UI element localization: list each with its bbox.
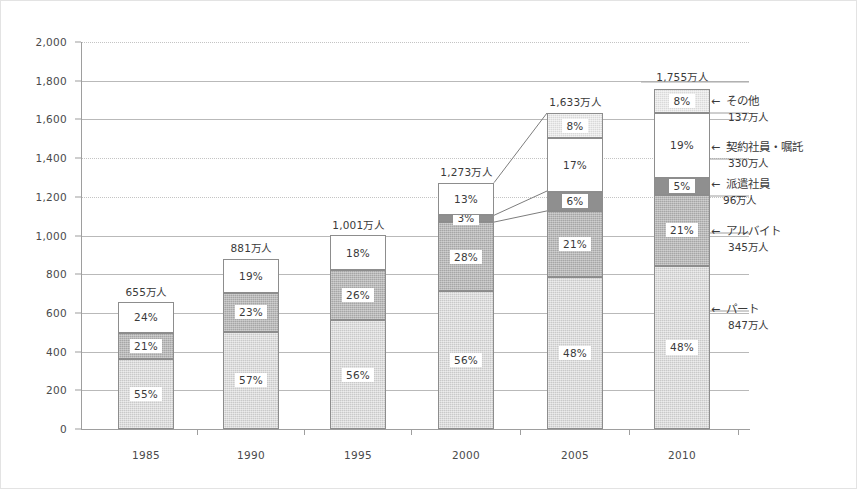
y-tick-mark-400: [75, 351, 81, 352]
x-tick-label-2000: 2000: [452, 449, 480, 461]
x-tick-mark-4: [520, 429, 521, 435]
y-tick-mark-2000: [75, 42, 81, 43]
segment-label: 28%: [450, 250, 482, 264]
y-tick-mark-200: [75, 390, 81, 391]
bar-1995[interactable]: 56% 26% 18%: [330, 235, 386, 429]
callout-name: パート: [726, 302, 759, 316]
segment-part-1995[interactable]: 56%: [330, 320, 386, 429]
segment-label: 6%: [562, 194, 587, 208]
gridline-200: [81, 390, 749, 391]
segment-other-2010[interactable]: 8%: [654, 89, 710, 113]
callout-value: 330万人: [728, 156, 803, 171]
segment-keiyaku-1995[interactable]: 18%: [330, 235, 386, 270]
segment-part-1990[interactable]: 57%: [223, 332, 279, 429]
segment-haken-2010[interactable]: 5%: [654, 178, 710, 195]
arrow-icon: ←: [711, 177, 726, 193]
segment-haken-2000[interactable]: 3%: [438, 215, 494, 222]
segment-keiyaku-1990[interactable]: 19%: [223, 259, 279, 293]
callout-arbeit: ←アルバイト 345万人: [711, 223, 781, 255]
segment-keiyaku-2000[interactable]: 13%: [438, 183, 494, 215]
bar-2000[interactable]: 56% 28% 3% 13%: [438, 183, 494, 429]
segment-keiyaku-1985[interactable]: 24%: [118, 302, 174, 332]
gridline-1200: [81, 197, 749, 198]
y-tick-label-800: 800: [21, 268, 67, 280]
segment-label: 23%: [235, 305, 267, 319]
callout-name: 派遣社員: [726, 177, 770, 191]
bar-total-1990: 881万人: [230, 240, 271, 255]
y-tick-mark-0: [75, 429, 81, 430]
y-tick-mark-1400: [75, 158, 81, 159]
y-tick-label-0: 0: [21, 423, 67, 435]
segment-haken-2005[interactable]: 6%: [547, 192, 603, 211]
callout-name: その他: [726, 94, 759, 108]
segment-part-2000[interactable]: 56%: [438, 291, 494, 429]
segment-label: 21%: [130, 339, 162, 353]
y-tick-label-600: 600: [21, 307, 67, 319]
callout-name: アルバイト: [726, 224, 781, 238]
callout-part: ←パート 847万人: [711, 301, 768, 333]
segment-label: 56%: [450, 353, 482, 367]
arrow-icon: ←: [711, 302, 726, 318]
gridline-2000: [81, 42, 749, 43]
y-tick-label-1400: 1,400: [21, 152, 67, 164]
segment-label: 21%: [559, 237, 591, 251]
segment-part-2010[interactable]: 48%: [654, 266, 710, 429]
segment-keiyaku-2010[interactable]: 19%: [654, 113, 710, 178]
arrow-icon: ←: [711, 94, 726, 110]
segment-keiyaku-2005[interactable]: 17%: [547, 138, 603, 192]
bar-1990[interactable]: 57% 23% 19%: [223, 259, 279, 430]
bar-total-1985: 655万人: [125, 284, 166, 299]
segment-arbeit-1990[interactable]: 23%: [223, 293, 279, 332]
callout-value: 137万人: [728, 110, 768, 125]
segment-label: 18%: [342, 246, 374, 260]
chart-frame: 0 200 400 600 800 1,000 1,200 1,400 1,60…: [0, 0, 857, 489]
x-tick-mark-2: [304, 429, 305, 435]
callout-haken: ←派遣社員 96万人: [711, 176, 770, 208]
y-tick-label-400: 400: [21, 346, 67, 358]
y-tick-mark-1200: [75, 196, 81, 197]
gridline-600: [81, 313, 749, 314]
x-tick-label-1990: 1990: [237, 449, 265, 461]
segment-other-2005[interactable]: 8%: [547, 113, 603, 138]
segment-part-2005[interactable]: 48%: [547, 277, 603, 429]
segment-arbeit-2010[interactable]: 21%: [654, 195, 710, 266]
x-tick-label-1985: 1985: [132, 449, 160, 461]
y-tick-mark-1600: [75, 119, 81, 120]
segment-arbeit-1995[interactable]: 26%: [330, 270, 386, 320]
x-tick-mark-6: [738, 429, 739, 435]
gridline-1000: [81, 236, 749, 237]
segment-label: 57%: [235, 373, 267, 387]
x-tick-mark-5: [629, 429, 630, 435]
segment-part-1985[interactable]: 55%: [118, 359, 174, 429]
segment-label: 19%: [666, 138, 698, 152]
y-tick-label-1800: 1,800: [21, 75, 67, 87]
y-tick-label-1000: 1,000: [21, 230, 67, 242]
segment-label: 17%: [559, 158, 591, 172]
callout-value: 847万人: [728, 318, 768, 333]
bar-1985[interactable]: 55% 21% 24%: [118, 302, 174, 429]
y-tick-label-1600: 1,600: [21, 113, 67, 125]
plot-area: [81, 42, 749, 429]
segment-label: 13%: [450, 192, 482, 206]
x-tick-label-2005: 2005: [561, 449, 589, 461]
bar-2005[interactable]: 48% 21% 6% 17% 8%: [547, 113, 603, 429]
gridline-800: [81, 274, 749, 275]
bar-total-1995: 1,001万人: [332, 217, 383, 232]
segment-label: 55%: [130, 387, 162, 401]
arrow-icon: ←: [711, 224, 726, 240]
callout-value: 96万人: [723, 193, 770, 208]
segment-arbeit-2005[interactable]: 21%: [547, 211, 603, 277]
segment-label: 56%: [342, 368, 374, 382]
y-tick-mark-1000: [75, 235, 81, 236]
segment-label: 5%: [669, 179, 694, 193]
segment-arbeit-2000[interactable]: 28%: [438, 222, 494, 291]
callout-sonota: ←その他 137万人: [711, 93, 768, 125]
gridline-1600: [81, 119, 749, 120]
y-tick-mark-1800: [75, 80, 81, 81]
bar-2010[interactable]: 48% 21% 5% 19% 8%: [654, 89, 710, 429]
y-tick-label-2000: 2,000: [21, 36, 67, 48]
y-axis-line: [81, 42, 82, 429]
segment-label: 48%: [559, 346, 591, 360]
segment-label: 19%: [235, 269, 267, 283]
segment-arbeit-1985[interactable]: 21%: [118, 333, 174, 360]
